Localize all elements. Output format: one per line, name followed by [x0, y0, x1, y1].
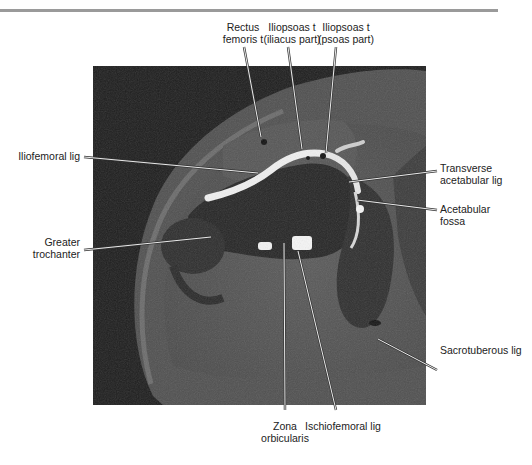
header-rule [0, 9, 498, 12]
label-greater-trochanter: Greater trochanter [0, 236, 80, 260]
label-sacrotuberous-lig: Sacrotuberous lig [440, 344, 532, 356]
label-zona-orbicularis: Zona orbicularis [260, 420, 310, 444]
label-iliopsoas-psoas: Iliopsoas t (psoas part) [316, 21, 376, 45]
label-ischiofemoral-lig: Ischiofemoral lig [305, 420, 405, 432]
label-acetabular-fossa: Acetabular fossa [440, 203, 530, 227]
label-iliofemoral-lig: Iliofemoral lig [0, 150, 80, 162]
mri-image [93, 66, 426, 405]
label-iliopsoas-iliacus: Iliopsoas t (iliacus part) [261, 21, 323, 45]
label-transverse-acetabular-lig: Transverse acetabular lig [440, 162, 530, 186]
